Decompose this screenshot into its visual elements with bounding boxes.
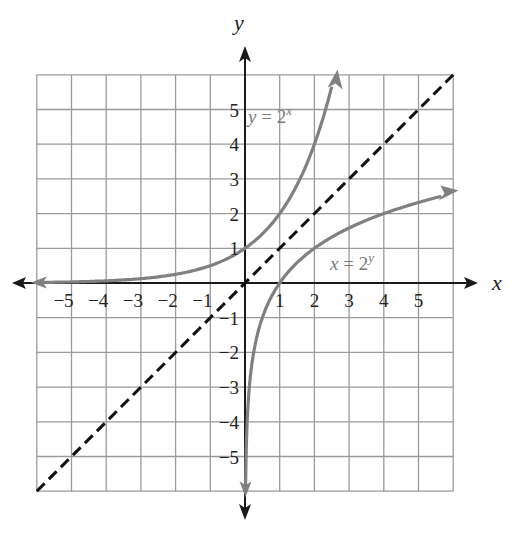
x-tick-label: −5 — [53, 290, 73, 311]
curve-label-exponential-main: y = 2 — [246, 106, 286, 127]
curve-label-logarithmic-main: x = 2 — [329, 253, 368, 274]
y-tick-label: −4 — [219, 412, 240, 433]
curve-label-exponential-sup: x — [285, 103, 292, 118]
x-tick-label: −4 — [88, 290, 109, 311]
y-tick-label: 2 — [230, 204, 240, 225]
y-tick-label: 5 — [230, 100, 240, 121]
y-tick-label: −3 — [219, 377, 239, 398]
y-tick-label: 4 — [230, 134, 240, 155]
y-tick-label: 1 — [230, 238, 240, 259]
x-axis-label: x — [491, 270, 502, 295]
x-tick-label: 3 — [344, 290, 354, 311]
curve-label-logarithmic-sup: y — [366, 250, 374, 265]
x-tick-label: 1 — [275, 290, 285, 311]
graph-figure: −5−4−3−2−112345−5−4−3−2−112345 x y y = 2… — [0, 0, 521, 536]
curve-label-logarithmic: x = 2y — [329, 250, 374, 274]
curve-logarithmic — [246, 196, 442, 491]
x-tick-label: −1 — [192, 290, 212, 311]
curve-logarithmic-arrow-icon — [438, 185, 458, 200]
y-tick-label: −2 — [219, 342, 239, 363]
y-tick-label: −1 — [219, 308, 239, 329]
x-tick-label: 5 — [414, 290, 424, 311]
y-tick-label: 3 — [230, 169, 240, 190]
x-tick-label: 4 — [379, 290, 389, 311]
curve-label-exponential: y = 2x — [246, 103, 292, 127]
y-tick-label: −5 — [219, 447, 239, 468]
x-tick-label: 2 — [310, 290, 320, 311]
y-axis-label: y — [232, 10, 244, 35]
curve-exponential-arrow-icon — [328, 70, 343, 90]
x-tick-label: −2 — [157, 290, 177, 311]
x-tick-label: −3 — [123, 290, 143, 311]
